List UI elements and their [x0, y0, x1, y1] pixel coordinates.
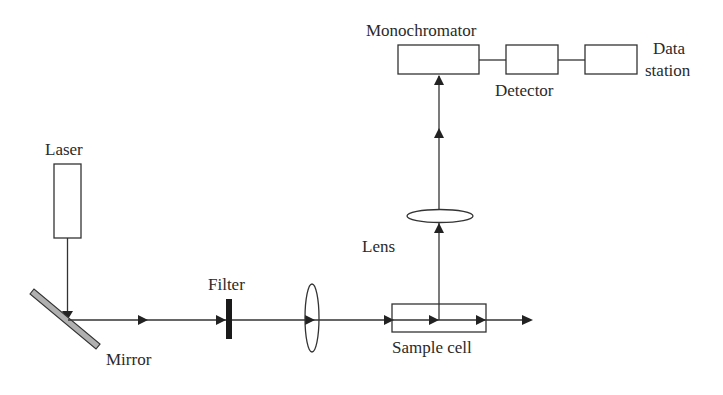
label-laser: Laser [45, 141, 83, 158]
laser-box [54, 164, 81, 238]
filter [226, 299, 232, 339]
detector-box [506, 45, 558, 74]
monochromator-box [398, 45, 479, 74]
arrow-up-icon [434, 75, 444, 85]
arrow-right-icon [429, 315, 439, 325]
label-data-station-2: station [645, 62, 690, 79]
label-filter: Filter [208, 276, 245, 293]
arrow-right-icon [138, 315, 148, 325]
data-station-box [585, 45, 637, 74]
label-detector: Detector [495, 82, 554, 99]
mirror [30, 289, 100, 349]
label-monochromator: Monochromator [366, 22, 476, 39]
collection-lens [407, 210, 473, 223]
arrow-right-icon [216, 315, 226, 325]
label-sample-cell: Sample cell [392, 339, 472, 356]
arrow-right-icon [522, 315, 533, 325]
arrow-right-icon [305, 315, 315, 325]
diagram-canvas [0, 0, 723, 395]
label-lens: Lens [362, 238, 395, 255]
arrow-up-icon [434, 128, 444, 138]
arrow-right-icon [476, 315, 486, 325]
arrow-up-icon [434, 223, 444, 233]
label-mirror: Mirror [106, 351, 151, 368]
label-data-station-1: Data [653, 40, 685, 57]
